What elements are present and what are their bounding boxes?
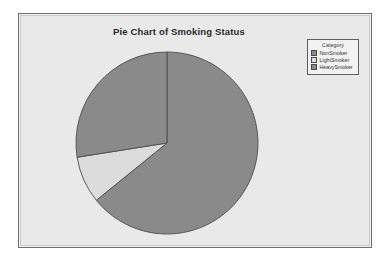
legend-entry-label: NonSmoker [320, 50, 348, 56]
legend-entry-list: NonSmokerLightSmokerHeavySmoker [311, 50, 355, 70]
chart-frame: Pie Chart of Smoking Status Category Non… [18, 13, 372, 248]
pie-slice-group [76, 52, 258, 234]
legend-swatch-icon [311, 57, 317, 63]
legend-title: Category [311, 42, 355, 48]
legend-entry-label: HeavySmoker [320, 64, 353, 70]
pie-slice-heavysmoker [76, 52, 167, 157]
legend-swatch-icon [311, 50, 317, 56]
legend-entry-label: LightSmoker [320, 57, 350, 63]
legend-entry: NonSmoker [311, 50, 355, 56]
legend-swatch-icon [311, 64, 317, 70]
legend-entry: HeavySmoker [311, 64, 355, 70]
legend: Category NonSmokerLightSmokerHeavySmoker [307, 39, 359, 75]
legend-entry: LightSmoker [311, 57, 355, 63]
